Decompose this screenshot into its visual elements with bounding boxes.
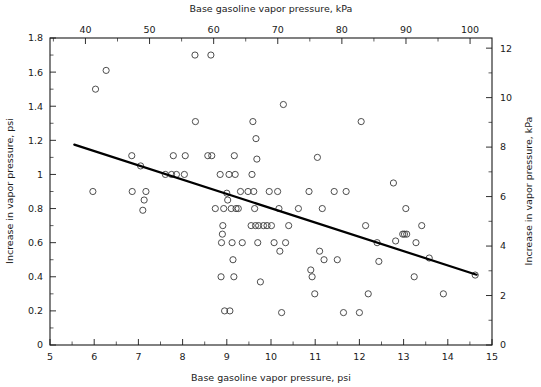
data-point xyxy=(239,240,245,246)
data-point xyxy=(308,267,314,273)
data-point xyxy=(358,118,364,124)
scatter-plot-svg: Base gasoline vapor pressure, kPa Base g… xyxy=(0,0,541,387)
left-tick-label: 0.6 xyxy=(28,237,43,248)
data-point xyxy=(92,86,98,92)
left-tick-label: 1.4 xyxy=(28,101,43,112)
data-point xyxy=(362,223,368,229)
data-point xyxy=(192,52,198,58)
data-point xyxy=(229,240,235,246)
data-point xyxy=(403,205,409,211)
data-point xyxy=(250,118,256,124)
data-point xyxy=(143,188,149,194)
data-point xyxy=(393,238,399,244)
top-tick-label: 90 xyxy=(400,24,412,35)
data-point xyxy=(309,274,315,280)
data-point xyxy=(192,118,198,124)
data-point xyxy=(225,197,231,203)
data-point xyxy=(208,52,214,58)
right-tick-label: 6 xyxy=(500,191,506,202)
data-point xyxy=(334,257,340,263)
data-point xyxy=(390,180,396,186)
right-tick-label: 12 xyxy=(500,43,512,54)
data-point xyxy=(181,171,187,177)
left-tick-label: 1.8 xyxy=(28,32,43,43)
top-tick-label: 40 xyxy=(79,24,91,35)
top-tick-label: 70 xyxy=(272,24,284,35)
data-point xyxy=(413,240,419,246)
data-point xyxy=(314,154,320,160)
data-point xyxy=(249,171,255,177)
data-point xyxy=(331,188,337,194)
data-point xyxy=(356,309,362,315)
bottom-tick-label: 15 xyxy=(486,351,498,362)
data-point xyxy=(90,188,96,194)
bottom-tick-label: 9 xyxy=(224,351,230,362)
data-point xyxy=(268,223,274,229)
data-point xyxy=(141,197,147,203)
data-point xyxy=(253,136,259,142)
bottom-tick-label: 13 xyxy=(398,351,410,362)
data-point xyxy=(254,156,260,162)
top-tick-label: 50 xyxy=(144,24,156,35)
top-axis-ticks: 405060708090100 xyxy=(53,24,479,44)
left-axis-ticks: 00.20.40.60.811.21.41.61.8 xyxy=(28,32,56,350)
data-point xyxy=(129,153,135,159)
data-point xyxy=(252,205,258,211)
data-point xyxy=(218,240,224,246)
bottom-tick-label: 6 xyxy=(91,351,97,362)
data-point xyxy=(317,248,323,254)
plot-frame xyxy=(50,38,492,345)
data-point xyxy=(277,248,283,254)
data-point xyxy=(218,274,224,280)
data-point xyxy=(231,153,237,159)
data-point xyxy=(275,188,281,194)
chart-figure: Base gasoline vapor pressure, kPa Base g… xyxy=(0,0,541,387)
data-points-layer xyxy=(90,52,479,316)
data-point xyxy=(286,223,292,229)
left-tick-label: 0.8 xyxy=(28,203,43,214)
data-point xyxy=(365,291,371,297)
data-point xyxy=(245,188,251,194)
top-tick-label: 60 xyxy=(208,24,220,35)
left-axis-title: Increase in vapor pressure, psi xyxy=(4,118,15,264)
data-point xyxy=(226,171,232,177)
data-point xyxy=(282,240,288,246)
data-point xyxy=(343,188,349,194)
left-tick-label: 0.2 xyxy=(28,305,43,316)
bottom-tick-label: 5 xyxy=(47,351,53,362)
bottom-axis-title: Base gasoline vapor pressure, psi xyxy=(191,372,351,383)
bottom-tick-label: 11 xyxy=(309,351,321,362)
data-point xyxy=(321,257,327,263)
bottom-tick-label: 10 xyxy=(265,351,277,362)
data-point xyxy=(170,153,176,159)
left-tick-label: 1 xyxy=(37,169,43,180)
data-point xyxy=(257,279,263,285)
left-tick-label: 1.2 xyxy=(28,135,43,146)
data-point xyxy=(312,291,318,297)
right-axis-ticks: 024681012 xyxy=(486,43,512,351)
data-point xyxy=(220,223,226,229)
data-point xyxy=(217,171,223,177)
data-point xyxy=(280,101,286,107)
data-point xyxy=(182,153,188,159)
right-axis-title: Increase in vapor pressure, kPa xyxy=(523,117,534,266)
regression-fit-line xyxy=(74,145,476,275)
data-point xyxy=(319,205,325,211)
top-tick-label: 100 xyxy=(461,24,479,35)
left-tick-label: 0.4 xyxy=(28,271,43,282)
bottom-tick-label: 7 xyxy=(135,351,141,362)
data-point xyxy=(440,291,446,297)
top-axis-title: Base gasoline vapor pressure, kPa xyxy=(190,3,353,14)
data-point xyxy=(340,309,346,315)
data-point xyxy=(411,274,417,280)
data-point xyxy=(219,231,225,237)
data-point xyxy=(251,188,257,194)
data-point xyxy=(103,67,109,73)
bottom-tick-label: 8 xyxy=(180,351,186,362)
data-point xyxy=(232,171,238,177)
data-point xyxy=(221,205,227,211)
bottom-tick-label: 12 xyxy=(353,351,365,362)
data-point xyxy=(212,205,218,211)
data-point xyxy=(279,309,285,315)
right-tick-label: 0 xyxy=(500,339,506,350)
